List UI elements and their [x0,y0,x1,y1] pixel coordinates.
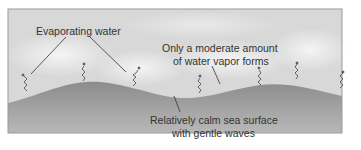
label-calm-sea-line2: with gentle waves [172,127,255,139]
label-moderate-vapor-line1: Only a moderate amount [162,42,278,54]
label-evaporating-water: Evaporating water [36,25,121,37]
label-calm-sea-line1: Relatively calm sea surface [150,114,278,126]
label-moderate-vapor-line2: of water vapor forms [173,55,269,67]
